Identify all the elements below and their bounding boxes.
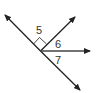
angle-label-5: 5 — [36, 24, 42, 36]
angle-label-7: 7 — [55, 54, 61, 66]
angle-diagram: 5 6 7 — [0, 0, 96, 93]
angle-label-6: 6 — [55, 38, 61, 50]
right-angle-marker — [34, 38, 47, 45]
